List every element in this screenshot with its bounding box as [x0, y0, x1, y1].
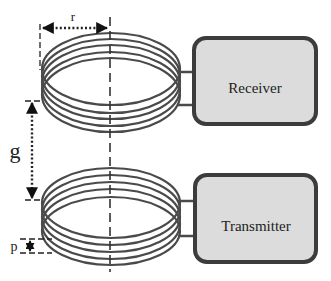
pitch-dimension: [20, 239, 52, 253]
gap-label: g: [10, 138, 21, 163]
gap-dimension: [25, 101, 41, 200]
transmitter-coil: [42, 168, 180, 265]
pitch-label: p: [11, 239, 18, 254]
receiver-coil: [42, 33, 180, 132]
transmitter-label: Transmitter: [221, 218, 290, 234]
receiver-label: Receiver: [228, 80, 281, 96]
coil-diagram: Receiver Transmitter r g p: [0, 0, 331, 281]
radius-label: r: [71, 9, 76, 24]
